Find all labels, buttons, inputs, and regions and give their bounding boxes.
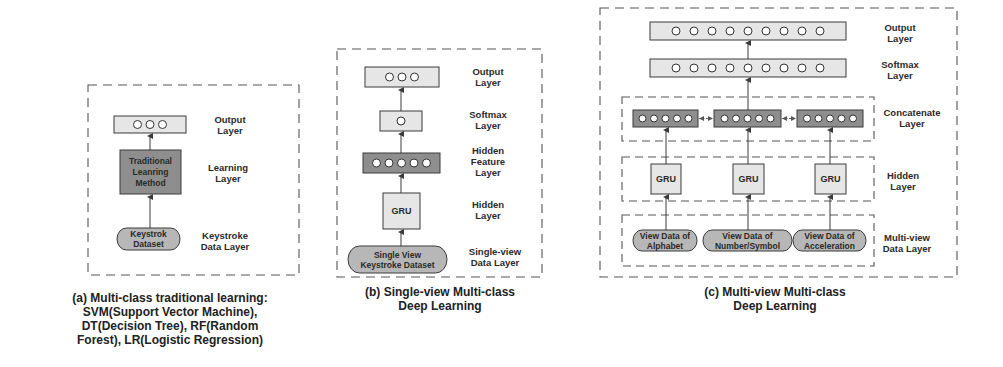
view-data-alphabet-pill-text: View Data ofAlphabet bbox=[640, 231, 691, 251]
neuron-circle-icon bbox=[816, 27, 824, 35]
output-layer-box bbox=[365, 67, 439, 87]
view-data-acceleration-pill: View Data ofAcceleration bbox=[793, 230, 866, 251]
neuron-circle-icon bbox=[744, 27, 752, 35]
neuron-circle-icon bbox=[651, 115, 658, 122]
layer-label: HiddenFeatureLayer bbox=[471, 145, 505, 178]
view-data-alphabet-pill: View Data ofAlphabet bbox=[633, 230, 697, 251]
neuron-circle-icon bbox=[798, 64, 806, 72]
neuron-circle-icon bbox=[744, 64, 752, 72]
layer-label: OutputLayer bbox=[884, 22, 916, 44]
gru-box-acceleration-text: GRU bbox=[821, 174, 841, 184]
layer-label: Multi-viewData Layer bbox=[883, 232, 932, 254]
layer-label: OutputLayer bbox=[472, 66, 504, 88]
neuron-circle-icon bbox=[411, 73, 419, 81]
neuron-circle-icon bbox=[827, 115, 834, 122]
neuron-circle-icon bbox=[726, 64, 734, 72]
neuron-circle-icon bbox=[159, 121, 167, 129]
layer-label: SoftmaxLayer bbox=[469, 109, 507, 131]
gru-box-acceleration: GRU bbox=[815, 164, 846, 194]
neuron-circle-icon bbox=[398, 73, 406, 81]
neuron-circle-icon bbox=[662, 115, 669, 122]
view-data-number-symbol-pill-text: View Data ofNumber/Symbol bbox=[715, 231, 780, 251]
gru-box-number: GRU bbox=[733, 164, 764, 194]
concat-box-alphabet bbox=[633, 110, 698, 127]
panel-b-caption: (b) Single-view Multi-classDeep Learning bbox=[365, 285, 515, 313]
learning-method-box-text: TraditionalLeanringMethod bbox=[129, 156, 172, 188]
neuron-circle-icon bbox=[798, 27, 806, 35]
neuron-circle-icon bbox=[397, 117, 405, 125]
neuron-circle-icon bbox=[672, 64, 680, 72]
neuron-circle-icon bbox=[410, 159, 418, 167]
neuron-circle-icon bbox=[756, 115, 763, 122]
layer-label: OutputLayer bbox=[214, 114, 246, 136]
learning-method-box: TraditionalLeanringMethod bbox=[120, 150, 181, 194]
neuron-circle-icon bbox=[744, 115, 751, 122]
gru-box-alphabet-text: GRU bbox=[656, 174, 676, 184]
output-layer-box bbox=[114, 116, 186, 133]
single-view-keystroke-dataset-pill: Single ViewKeystroke Dataset bbox=[348, 246, 447, 273]
layer-label: LearningLayer bbox=[208, 162, 248, 184]
hidden-feature-layer-box bbox=[363, 153, 440, 173]
neuron-circle-icon bbox=[767, 115, 774, 122]
layer-label: SoftmaxLayer bbox=[881, 59, 919, 81]
gru-box-alphabet: GRU bbox=[651, 164, 681, 194]
view-data-number-symbol-pill: View Data ofNumber/Symbol bbox=[703, 230, 792, 251]
neuron-circle-icon bbox=[762, 64, 770, 72]
concat-box-number bbox=[714, 110, 781, 127]
neuron-circle-icon bbox=[373, 159, 381, 167]
neuron-circle-icon bbox=[850, 115, 857, 122]
neuron-circle-icon bbox=[708, 64, 716, 72]
concat-box-acceleration bbox=[797, 110, 863, 127]
softmax-layer-box bbox=[380, 111, 422, 131]
neuron-circle-icon bbox=[398, 159, 406, 167]
gru-box: GRU bbox=[383, 193, 420, 229]
architecture-diagram: TraditionalLeanringMethodKeystrokDataset… bbox=[0, 0, 1003, 367]
neuron-circle-icon bbox=[816, 64, 824, 72]
gru-box-text: GRU bbox=[392, 206, 412, 216]
output-layer-box bbox=[650, 22, 846, 40]
neuron-circle-icon bbox=[134, 121, 142, 129]
neuron-circle-icon bbox=[385, 159, 393, 167]
neuron-circle-icon bbox=[726, 27, 734, 35]
neuron-circle-icon bbox=[780, 27, 788, 35]
panel-a-caption: (a) Multi-class traditional learning:SVM… bbox=[72, 291, 267, 347]
neuron-circle-icon bbox=[386, 73, 394, 81]
neuron-circle-icon bbox=[690, 64, 698, 72]
panel-a-traditional-learning: TraditionalLeanringMethodKeystrokDataset… bbox=[72, 85, 299, 347]
gru-box-number-text: GRU bbox=[739, 174, 759, 184]
layer-label: KeystrokeData Layer bbox=[201, 230, 250, 252]
panel-c-multi-view-deep-learning: GRUGRUGRUView Data ofAlphabetView Data o… bbox=[600, 8, 957, 313]
keystroke-dataset-pill: KeystrokDataset bbox=[117, 228, 180, 250]
neuron-circle-icon bbox=[733, 115, 740, 122]
layer-label: HiddenLayer bbox=[887, 170, 919, 192]
neuron-circle-icon bbox=[423, 159, 431, 167]
layer-label: ConcatenateLayer bbox=[883, 107, 940, 129]
keystroke-dataset-pill-text: KeystrokDataset bbox=[130, 229, 167, 249]
neuron-circle-icon bbox=[672, 27, 680, 35]
neuron-circle-icon bbox=[815, 115, 822, 122]
layer-label: Single-viewData Layer bbox=[469, 246, 522, 268]
neuron-circle-icon bbox=[146, 121, 154, 129]
neuron-circle-icon bbox=[721, 115, 728, 122]
neuron-circle-icon bbox=[838, 115, 845, 122]
neuron-circle-icon bbox=[639, 115, 646, 122]
neuron-circle-icon bbox=[804, 115, 811, 122]
neuron-circle-icon bbox=[685, 115, 692, 122]
neuron-circle-icon bbox=[674, 115, 681, 122]
panel-b-single-view-deep-learning: GRUSingle ViewKeystroke DatasetOutputLay… bbox=[337, 49, 542, 313]
softmax-layer-box bbox=[650, 59, 846, 77]
neuron-circle-icon bbox=[708, 27, 716, 35]
view-data-acceleration-pill-text: View Data ofAcceleration bbox=[804, 231, 855, 251]
neuron-circle-icon bbox=[762, 27, 770, 35]
neuron-circle-icon bbox=[690, 27, 698, 35]
panel-c-caption: (c) Multi-view Multi-classDeep Learning bbox=[704, 285, 846, 313]
layer-label: HiddenLayer bbox=[472, 199, 504, 221]
neuron-circle-icon bbox=[780, 64, 788, 72]
